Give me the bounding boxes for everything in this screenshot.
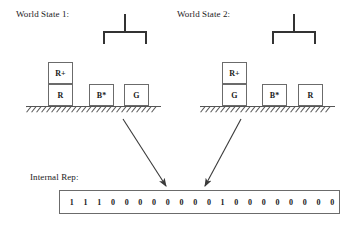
block-ws2-right: R: [298, 84, 323, 106]
bit-cell: 0: [147, 198, 161, 207]
ground-hatching-1: [26, 107, 161, 113]
gripper-claw-2: [272, 14, 316, 44]
bit-cell: 0: [312, 198, 326, 207]
bit-cell: 0: [134, 198, 148, 207]
bit-cell: 0: [229, 198, 243, 207]
bit-cell: 0: [325, 198, 339, 207]
bit-cell: 1: [65, 198, 79, 207]
gripper-prong-left-icon: [103, 31, 105, 44]
diagram-canvas: World State 1: R+ R B* G World State 2: …: [0, 0, 353, 226]
bit-cell: 0: [175, 198, 189, 207]
world-state-2-title: World State 2:: [177, 9, 230, 19]
block-label: R: [58, 91, 64, 100]
world-state-1-title: World State 1:: [16, 9, 69, 19]
block-label: G: [133, 91, 139, 100]
gripper-prong-left-icon: [272, 31, 274, 44]
ground-hatching-2: [200, 107, 335, 113]
block-ws1-top: R+: [48, 62, 73, 84]
block-ws1-middle: B*: [89, 84, 114, 106]
gripper-claw-1: [103, 14, 147, 44]
bit-cell: 0: [271, 198, 285, 207]
gripper-stem-icon: [124, 14, 126, 32]
arrow-from-world-state-2: [205, 119, 241, 186]
bit-cell: 1: [92, 198, 106, 207]
bit-cell: 0: [284, 198, 298, 207]
bit-cell: 1: [79, 198, 93, 207]
block-label: B*: [97, 91, 107, 100]
bit-cell: 0: [120, 198, 134, 207]
bit-cell: 0: [161, 198, 175, 207]
gripper-prong-right-icon: [145, 31, 147, 44]
bit-cell: 0: [106, 198, 120, 207]
bit-cell: 0: [202, 198, 216, 207]
gripper-stem-icon: [293, 14, 295, 32]
block-label: R+: [229, 69, 240, 78]
block-ws1-right: G: [124, 84, 149, 106]
arrow-from-world-state-1: [123, 119, 166, 186]
bit-cell: 0: [257, 198, 271, 207]
bit-cell: 1: [216, 198, 230, 207]
block-label: R+: [55, 69, 66, 78]
hatch-tick: [325, 107, 331, 113]
block-ws2-bottom: G: [222, 84, 247, 106]
hatch-tick: [151, 107, 157, 113]
block-ws2-middle: B*: [262, 84, 287, 106]
block-label: G: [231, 91, 237, 100]
bit-cell: 0: [298, 198, 312, 207]
gripper-bar-icon: [272, 31, 316, 33]
bit-cell: 0: [188, 198, 202, 207]
block-ws1-bottom: R: [48, 84, 73, 106]
block-ws2-top: R+: [222, 62, 247, 84]
internal-rep-bit-vector: 11100000000100000000: [59, 190, 340, 214]
internal-rep-title: Internal Rep:: [30, 172, 79, 182]
gripper-bar-icon: [103, 31, 147, 33]
bit-cell: 0: [243, 198, 257, 207]
block-label: B*: [270, 91, 280, 100]
gripper-prong-right-icon: [314, 31, 316, 44]
block-label: R: [308, 91, 314, 100]
